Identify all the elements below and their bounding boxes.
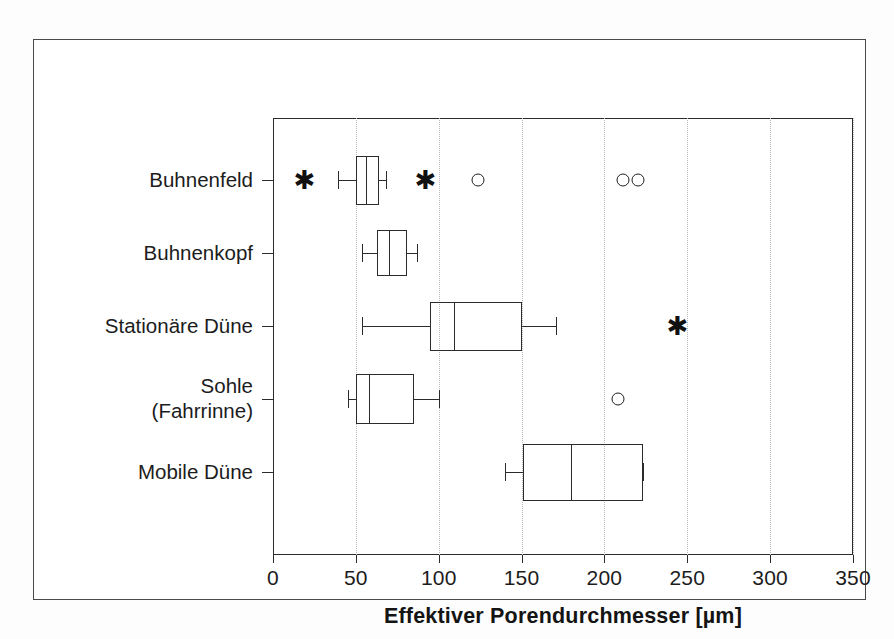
y-category-label-line1: Buhnenfeld: [13, 168, 253, 193]
x-tick-label-100: 100: [421, 566, 457, 590]
y-category-label-line1: Mobile Düne: [13, 460, 253, 485]
y-category-label-line2: (Fahrrinne): [13, 399, 253, 424]
x-tick-label-200: 200: [587, 566, 623, 590]
y-tick-2: [262, 326, 273, 327]
y-tick-0: [262, 180, 273, 181]
y-tick-1: [262, 253, 273, 254]
x-tick-label-50: 50: [344, 566, 368, 590]
box-plot-4: [273, 118, 853, 555]
y-tick-4: [262, 472, 273, 473]
figure-outer-frame: 050100150200250300350 BuhnenfeldBuhnenko…: [33, 39, 866, 600]
box-iqr: [523, 444, 642, 501]
plot-area: 050100150200250300350 BuhnenfeldBuhnenko…: [273, 118, 853, 555]
x-tick-label-0: 0: [267, 566, 279, 590]
y-category-label-3: Sohle(Fahrrinne): [13, 374, 253, 423]
x-tick-150: [522, 555, 523, 563]
x-tick-350: [853, 555, 854, 563]
x-axis-title: Effektiver Porendurchmesser [µm]: [273, 604, 853, 629]
y-category-label-line1: Sohle: [13, 374, 253, 399]
y-category-label-0: Buhnenfeld: [13, 168, 253, 193]
x-tick-label-350: 350: [835, 566, 871, 590]
x-tick-50: [356, 555, 357, 563]
y-category-label-line1: Stationäre Düne: [13, 314, 253, 339]
x-tick-300: [770, 555, 771, 563]
y-category-label-line1: Buhnenkopf: [13, 241, 253, 266]
x-tick-200: [604, 555, 605, 563]
y-category-label-1: Buhnenkopf: [13, 241, 253, 266]
x-tick-100: [439, 555, 440, 563]
y-category-label-4: Mobile Düne: [13, 460, 253, 485]
whisker-high-cap: [643, 463, 644, 481]
figure-canvas: 050100150200250300350 BuhnenfeldBuhnenko…: [0, 0, 894, 639]
x-tick-label-300: 300: [752, 566, 788, 590]
x-tick-label-250: 250: [669, 566, 705, 590]
y-tick-3: [262, 399, 273, 400]
y-category-label-2: Stationäre Düne: [13, 314, 253, 339]
median-line: [571, 444, 572, 501]
whisker-low-line: [505, 472, 523, 473]
x-tick-250: [687, 555, 688, 563]
gridline-350: [853, 118, 854, 555]
x-tick-0: [273, 555, 274, 563]
whisker-low-cap: [505, 463, 506, 481]
x-tick-label-150: 150: [504, 566, 540, 590]
